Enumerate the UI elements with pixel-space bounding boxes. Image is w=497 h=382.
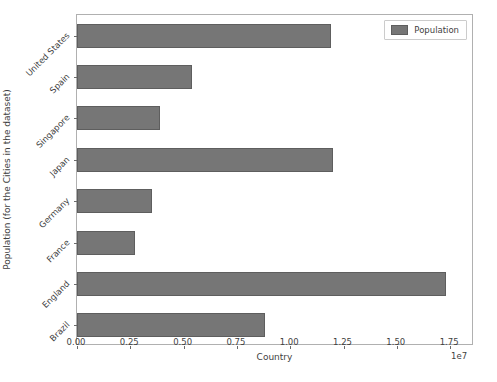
bar-germany bbox=[77, 189, 152, 213]
x-tick-label: 0.50 bbox=[173, 337, 192, 347]
y-tick bbox=[74, 36, 77, 37]
x-tick-label: 1.00 bbox=[280, 337, 299, 347]
x-tick-label: 0.25 bbox=[120, 337, 139, 347]
bar-row bbox=[77, 139, 472, 180]
bar-england bbox=[77, 272, 446, 296]
figure: Population (for the Cities in the datase… bbox=[0, 0, 497, 382]
bar-row bbox=[77, 263, 472, 304]
plot-area: Population bbox=[76, 14, 473, 345]
bar-row bbox=[77, 56, 472, 97]
bar-singapore bbox=[77, 106, 160, 130]
legend: Population bbox=[384, 20, 467, 40]
y-tick bbox=[74, 201, 77, 202]
x-axis-exponent-label: 1e7 bbox=[451, 351, 467, 361]
y-tick bbox=[74, 118, 77, 119]
y-axis-label: Population (for the Cities in the datase… bbox=[2, 14, 16, 345]
bar-row bbox=[77, 222, 472, 263]
bar-row bbox=[77, 181, 472, 222]
x-tick-label: 0.00 bbox=[67, 337, 86, 347]
x-tick-label: 1.75 bbox=[440, 337, 459, 347]
x-tick-label: 1.50 bbox=[386, 337, 405, 347]
x-tick-label: 0.75 bbox=[226, 337, 245, 347]
x-axis-label: Country bbox=[76, 352, 473, 362]
y-tick bbox=[74, 243, 77, 244]
bar-france bbox=[77, 231, 135, 255]
bar-spain bbox=[77, 65, 192, 89]
bar-united-states bbox=[77, 24, 331, 48]
bar-row bbox=[77, 98, 472, 139]
y-tick bbox=[74, 77, 77, 78]
x-tick-label: 1.25 bbox=[333, 337, 352, 347]
legend-label-population: Population bbox=[414, 25, 459, 35]
bar-japan bbox=[77, 148, 333, 172]
y-tick bbox=[74, 284, 77, 285]
y-tick bbox=[74, 160, 77, 161]
legend-swatch-population bbox=[391, 25, 408, 35]
y-tick bbox=[74, 325, 77, 326]
bar-brazil bbox=[77, 313, 265, 337]
